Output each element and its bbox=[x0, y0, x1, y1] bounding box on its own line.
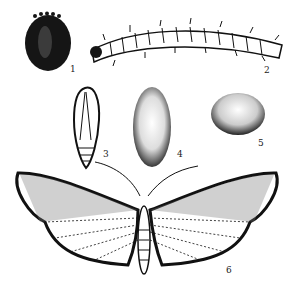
stage-label-6: 6 bbox=[226, 266, 232, 275]
pupa-illustration bbox=[74, 88, 99, 168]
stage-label-1: 1 bbox=[70, 65, 76, 74]
stage-label-4: 4 bbox=[177, 150, 183, 159]
moth-life-cycle-figure: 1 2 3 4 5 6 bbox=[0, 0, 301, 288]
stage-label-3: 3 bbox=[103, 150, 109, 159]
illustration-canvas bbox=[0, 0, 301, 288]
adult-moth-illustration bbox=[17, 162, 277, 274]
cocoon-illustration bbox=[133, 87, 171, 167]
larva-illustration bbox=[90, 18, 282, 66]
stage-label-2: 2 bbox=[264, 66, 270, 75]
egg-illustration bbox=[25, 12, 71, 72]
cocoon-small-illustration bbox=[211, 93, 265, 135]
stage-label-5: 5 bbox=[258, 139, 264, 148]
